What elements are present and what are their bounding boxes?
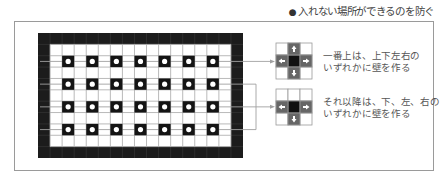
pillar-dot (138, 127, 143, 132)
pillar-dot (138, 82, 143, 87)
pillar-dot (210, 104, 215, 109)
pillar-dot (210, 82, 215, 87)
pillar-dot (162, 82, 167, 87)
pillar-dot (114, 82, 119, 87)
caption-line: いずれかに壁を作る (323, 62, 420, 74)
pillar-dot (210, 59, 215, 64)
pillar-dot (114, 104, 119, 109)
arrow-right-icon (270, 59, 275, 63)
caption-first-row: 一番上は、上下左右の いずれかに壁を作る (323, 50, 420, 74)
pillar-dot (90, 59, 95, 64)
pillar-dot (114, 59, 119, 64)
pillar-dot (66, 82, 71, 87)
maze-diagram (0, 0, 448, 183)
caption-line: それ以降は、下、左、右の (323, 96, 439, 108)
pillar-dot (90, 127, 95, 132)
pillar-dot (66, 127, 71, 132)
pillar-dot (162, 127, 167, 132)
center-pillar (288, 55, 300, 67)
pillar-dot (186, 59, 191, 64)
caption-line: いずれかに壁を作る (323, 108, 439, 120)
pillar-dot (66, 104, 71, 109)
pillar-dot (138, 104, 143, 109)
pillar-dot (186, 127, 191, 132)
pillar-dot (210, 127, 215, 132)
pillar-dot (162, 59, 167, 64)
connector-lines (243, 59, 275, 129)
direction-grid-other-rows (276, 89, 312, 125)
pillar-dot (90, 82, 95, 87)
pillar-dot (186, 82, 191, 87)
pillar-dot (90, 104, 95, 109)
center-pillar (288, 101, 300, 113)
direction-grid-first-row (276, 43, 312, 79)
caption-line: 一番上は、上下左右の (323, 50, 420, 62)
pillar-dot (138, 59, 143, 64)
pillar-dot (162, 104, 167, 109)
caption-other-rows: それ以降は、下、左、右の いずれかに壁を作る (323, 96, 439, 120)
pillar-dot (186, 104, 191, 109)
pillar-dot (66, 59, 71, 64)
maze-grid (38, 33, 243, 158)
arrow-right-icon (270, 105, 275, 109)
pillar-dot (114, 127, 119, 132)
